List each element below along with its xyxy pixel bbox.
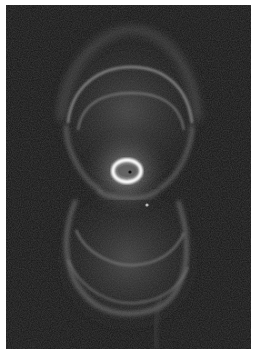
nebula-illustration [6, 5, 251, 349]
field-star [145, 203, 148, 206]
central-star [84, 131, 168, 215]
nebula-photo [6, 5, 251, 349]
